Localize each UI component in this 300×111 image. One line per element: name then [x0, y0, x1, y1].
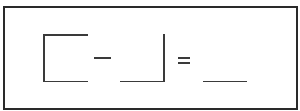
answer-blank-line — [203, 81, 247, 83]
shape-a-bottom-edge — [43, 81, 88, 83]
puzzle-frame — [3, 6, 298, 110]
shape-b-bottom-edge — [120, 81, 164, 83]
shape-b-right-edge — [163, 34, 165, 82]
equals-icon-top-bar — [178, 57, 190, 59]
shape-a-left-edge — [43, 34, 45, 82]
shape-b-label: corner shape (bottom and right edges) — [0, 0, 1, 1]
minus-label: − — [0, 0, 1, 1]
equals-icon-bottom-bar — [178, 62, 190, 64]
shape-a-label: open-bracket shape (top, left, bottom ed… — [0, 0, 1, 1]
equals-label: = — [0, 0, 1, 1]
shape-a-top-edge — [43, 34, 88, 36]
minus-icon — [94, 57, 111, 59]
answer-label: blank — [0, 0, 1, 1]
